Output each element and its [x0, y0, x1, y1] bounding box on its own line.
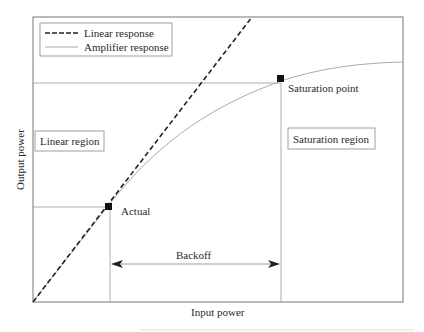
- legend-linear-label: Linear response: [84, 27, 154, 39]
- legend: Linear response Amplifier response: [40, 23, 172, 56]
- y-axis-label: Output power: [14, 129, 26, 190]
- saturation-region-label: Saturation region: [293, 133, 370, 145]
- actual-point-label: Actual: [121, 205, 150, 217]
- linear-region-label: Linear region: [40, 135, 100, 147]
- amplifier-response-curve: [33, 62, 403, 302]
- x-axis-label: Input power: [191, 306, 245, 318]
- legend-amplifier-label: Amplifier response: [84, 41, 169, 53]
- saturation-point-marker: [277, 75, 284, 82]
- backoff-label: Backoff: [176, 249, 212, 261]
- saturation-region-box: Saturation region: [288, 128, 375, 149]
- actual-point-marker: [105, 203, 112, 210]
- linear-region-box: Linear region: [35, 131, 104, 151]
- plot-frame: [33, 17, 403, 302]
- amplifier-backoff-diagram: Backoff Saturation point Actual Linear r…: [0, 0, 424, 332]
- saturation-point-label: Saturation point: [288, 82, 359, 94]
